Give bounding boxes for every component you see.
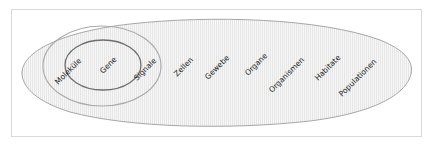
nested-scales-diagram: Moleküle Gene Signale Zellen Gewebe Orga…	[0, 0, 434, 144]
